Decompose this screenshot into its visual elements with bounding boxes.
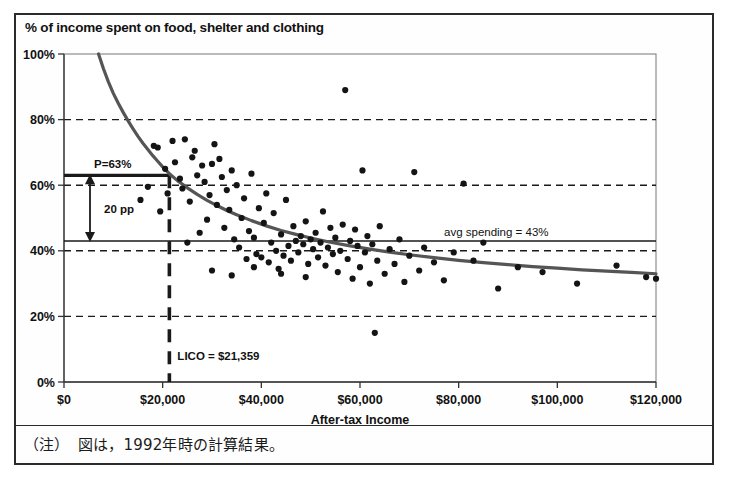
data-point — [226, 207, 232, 213]
x-tick-label: $100,000 — [531, 393, 583, 407]
data-point — [290, 223, 296, 229]
data-point — [335, 269, 341, 275]
data-point — [303, 274, 309, 280]
data-point — [303, 218, 309, 224]
x-tick-label: $60,000 — [337, 393, 382, 407]
data-point — [221, 225, 227, 231]
data-point — [283, 197, 289, 203]
data-point — [411, 169, 417, 175]
data-point — [310, 246, 316, 252]
data-point — [280, 253, 286, 259]
data-point — [342, 87, 348, 93]
data-point — [382, 271, 388, 277]
data-point — [184, 240, 190, 246]
data-point — [157, 208, 163, 214]
data-point — [256, 205, 262, 211]
lico-label: LICO = $21,359 — [177, 350, 259, 362]
data-point — [179, 185, 185, 191]
y-tick-label: 100% — [23, 48, 55, 62]
data-point — [219, 174, 225, 180]
data-point — [364, 233, 370, 239]
data-point — [268, 240, 274, 246]
data-point — [317, 240, 323, 246]
x-tick-label: $20,000 — [140, 393, 185, 407]
data-point — [162, 166, 168, 172]
data-point — [359, 167, 365, 173]
data-point — [352, 226, 358, 232]
data-point — [350, 276, 356, 282]
data-point — [224, 187, 230, 193]
data-point — [214, 202, 220, 208]
data-point — [165, 190, 171, 196]
data-point — [345, 256, 351, 262]
data-point — [271, 210, 277, 216]
data-point — [340, 221, 346, 227]
x-tick-label: $120,000 — [630, 393, 682, 407]
data-point — [234, 182, 240, 188]
data-point — [211, 141, 217, 147]
data-point — [461, 180, 467, 186]
data-point — [248, 171, 254, 177]
data-point — [216, 156, 222, 162]
p-threshold-label: P=63% — [94, 158, 131, 170]
data-point — [367, 281, 373, 287]
data-point — [278, 231, 284, 237]
data-point — [145, 184, 151, 190]
data-point — [202, 179, 208, 185]
data-point — [441, 277, 447, 283]
data-point — [308, 236, 314, 242]
data-point — [327, 225, 333, 231]
data-point — [515, 264, 521, 270]
data-point — [372, 330, 378, 336]
y-tick-label: 80% — [30, 113, 55, 127]
data-point — [261, 220, 267, 226]
data-point — [332, 235, 338, 241]
data-point — [320, 208, 326, 214]
figure-note-bar: （注） 図は，1992年時の計算結果。 — [16, 424, 712, 463]
data-point — [231, 236, 237, 242]
data-point — [295, 249, 301, 255]
data-point — [416, 267, 422, 273]
data-point — [229, 272, 235, 278]
data-point — [305, 261, 311, 267]
data-point — [653, 276, 659, 282]
y-tick-label: 20% — [30, 310, 55, 324]
data-point — [391, 261, 397, 267]
data-point — [251, 264, 257, 270]
data-point — [192, 148, 198, 154]
data-point — [377, 223, 383, 229]
data-point — [451, 249, 457, 255]
data-point — [480, 240, 486, 246]
data-point — [194, 172, 200, 178]
data-point — [177, 176, 183, 182]
data-point — [495, 285, 501, 291]
gap-label: 20 pp — [104, 203, 134, 215]
data-point — [288, 258, 294, 264]
y-tick-label: 40% — [30, 244, 55, 258]
data-point — [285, 243, 291, 249]
data-point — [357, 264, 363, 270]
data-point — [362, 249, 368, 255]
data-point — [539, 269, 545, 275]
data-point — [155, 144, 161, 150]
data-point — [347, 238, 353, 244]
data-point — [643, 274, 649, 280]
data-point — [330, 251, 336, 257]
data-point — [387, 246, 393, 252]
data-point — [431, 259, 437, 265]
data-point — [322, 262, 328, 268]
data-point — [241, 195, 247, 201]
data-point — [209, 161, 215, 167]
data-point — [229, 167, 235, 173]
x-tick-label: $40,000 — [239, 393, 284, 407]
data-point — [187, 199, 193, 205]
y-tick-label: 0% — [37, 376, 55, 390]
y-tick-label: 60% — [30, 179, 55, 193]
x-tick-label: $0 — [57, 393, 71, 407]
data-point — [239, 215, 245, 221]
data-point — [137, 197, 143, 203]
data-point — [374, 258, 380, 264]
data-point — [182, 136, 188, 142]
data-point — [266, 259, 272, 265]
data-point — [298, 233, 304, 239]
